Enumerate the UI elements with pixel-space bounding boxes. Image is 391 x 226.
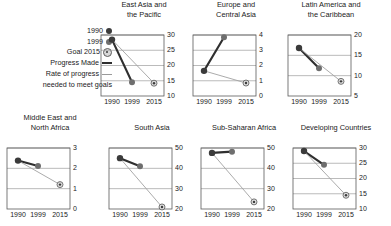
svg-text:1999: 1999: [216, 98, 232, 105]
svg-text:1990: 1990: [296, 211, 312, 218]
panel-title-line-1: South Asia: [106, 123, 198, 133]
svg-text:3: 3: [73, 144, 77, 151]
svg-text:0: 0: [259, 92, 263, 99]
svg-text:25: 25: [359, 159, 367, 166]
panel-europe-and-central-asia: Europe and Central Asia 0123419901999201…: [190, 0, 282, 113]
panel-title-line-2: the Pacific: [98, 10, 190, 20]
svg-text:10: 10: [167, 92, 175, 99]
svg-text:2: 2: [259, 61, 263, 68]
legend-item-1990: 1990: [0, 26, 112, 37]
panel-developing-countries: Developing Countries 1015202530199019992…: [290, 113, 382, 226]
legend-item-rate-needed: Rate of progress: [0, 69, 112, 80]
svg-text:1990: 1990: [196, 98, 212, 105]
svg-text:40: 40: [267, 164, 275, 171]
panel-south-asia: South Asia 20304050199019992015: [106, 113, 198, 226]
svg-text:3: 3: [259, 46, 263, 53]
svg-text:30: 30: [267, 185, 275, 192]
svg-text:2015: 2015: [338, 211, 354, 218]
legend-item-goal-2015: Goal 2015: [0, 47, 112, 58]
svg-text:2015: 2015: [154, 211, 170, 218]
legend-label-goal-2015: Goal 2015: [67, 47, 100, 58]
svg-text:5: 5: [354, 92, 358, 99]
svg-text:10: 10: [354, 72, 362, 79]
svg-text:1999: 1999: [224, 211, 240, 218]
svg-text:40: 40: [175, 164, 183, 171]
small-multiples-figure: 1990 1999 Goal 2015 Progress Made Rate o…: [0, 0, 391, 226]
svg-text:50: 50: [175, 144, 183, 151]
svg-text:1990: 1990: [112, 211, 128, 218]
panel-title: Europe and Central Asia: [190, 0, 282, 19]
svg-text:1990: 1990: [10, 211, 26, 218]
panel-title-line-2: Central Asia: [190, 10, 282, 20]
plot-area: 5101520199019992015: [285, 30, 377, 113]
plot-area: 0123199019992015: [4, 143, 96, 226]
panel-middle-east-and-north-africa: Middle East and North Africa 01231990199…: [4, 113, 96, 226]
panel-row-bottom: Middle East and North Africa 01231990199…: [0, 113, 391, 226]
svg-text:1990: 1990: [291, 98, 307, 105]
svg-text:1: 1: [73, 185, 77, 192]
plot-area: 1015202530199019992015: [98, 30, 190, 113]
svg-text:15: 15: [359, 190, 367, 197]
panel-title: Middle East and North Africa: [4, 113, 96, 132]
panel-title-line-1: Middle East and: [4, 113, 96, 123]
svg-text:2015: 2015: [146, 98, 162, 105]
svg-text:30: 30: [167, 31, 175, 38]
svg-text:25: 25: [167, 46, 175, 53]
svg-text:1999: 1999: [124, 98, 140, 105]
svg-text:1999: 1999: [311, 98, 327, 105]
panel-title-line-1: Sub-Saharan Africa: [192, 123, 296, 133]
svg-text:50: 50: [267, 144, 275, 151]
legend-label-progress-made: Progress Made: [50, 58, 99, 69]
panel-title: Latin America and the Caribbean: [278, 0, 384, 19]
plot-area: 1015202530199019992015: [290, 143, 382, 226]
plot-area: 20304050199019992015: [106, 143, 198, 226]
panel-title-line-1: East Asia and: [98, 0, 190, 10]
svg-text:30: 30: [175, 185, 183, 192]
svg-text:2015: 2015: [238, 98, 254, 105]
svg-text:2015: 2015: [333, 98, 349, 105]
svg-text:15: 15: [167, 77, 175, 84]
svg-text:20: 20: [175, 205, 183, 212]
svg-text:10: 10: [359, 205, 367, 212]
legend-label-rate-line-1: Rate of progress: [46, 69, 99, 80]
plot-area: 20304050199019992015: [198, 143, 290, 226]
svg-text:30: 30: [359, 144, 367, 151]
panel-title-line-2: North Africa: [4, 123, 96, 133]
svg-text:1990: 1990: [204, 211, 220, 218]
svg-text:20: 20: [267, 205, 275, 212]
panel-row-top: 1990 1999 Goal 2015 Progress Made Rate o…: [0, 0, 391, 113]
svg-text:2015: 2015: [246, 211, 262, 218]
svg-text:15: 15: [354, 51, 362, 58]
svg-text:1: 1: [259, 77, 263, 84]
chart-legend: 1990 1999 Goal 2015 Progress Made Rate o…: [0, 0, 112, 113]
panel-title: Sub-Saharan Africa: [192, 123, 296, 133]
svg-text:20: 20: [359, 174, 367, 181]
svg-text:4: 4: [259, 31, 263, 38]
legend-item-1999: 1999: [0, 37, 112, 48]
panel-title-line-1: Europe and: [190, 0, 282, 10]
svg-text:0: 0: [73, 205, 77, 212]
legend-item-progress-made: Progress Made: [0, 58, 112, 69]
panel-title: South Asia: [106, 123, 198, 133]
svg-text:2015: 2015: [52, 211, 68, 218]
svg-text:1999: 1999: [316, 211, 332, 218]
panel-east-asia-and-the-pacific: East Asia and the Pacific 10152025301990…: [98, 0, 190, 113]
panel-title-line-1: Latin America and: [278, 0, 384, 10]
svg-text:1990: 1990: [104, 98, 120, 105]
legend-item-rate-needed-cont: needed to meet goals: [0, 80, 112, 91]
panel-latin-america-and-the-caribbean: Latin America and the Caribbean 51015201…: [285, 0, 377, 113]
panel-sub-saharan-africa: Sub-Saharan Africa 20304050199019992015: [198, 113, 290, 226]
plot-area: 01234199019992015: [190, 30, 282, 113]
panel-title: Developing Countries: [284, 123, 388, 133]
panel-title-line-2: the Caribbean: [278, 10, 384, 20]
panel-title: East Asia and the Pacific: [98, 0, 190, 19]
svg-text:20: 20: [167, 61, 175, 68]
svg-text:20: 20: [354, 31, 362, 38]
svg-text:2: 2: [73, 164, 77, 171]
svg-text:1999: 1999: [132, 211, 148, 218]
panel-title-line-1: Developing Countries: [284, 123, 388, 133]
svg-text:1999: 1999: [30, 211, 46, 218]
